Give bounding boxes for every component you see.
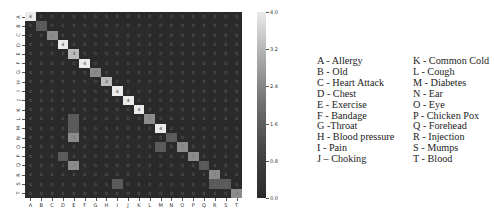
heatmap-cell: 0: [123, 31, 134, 40]
heatmap-cell: 0: [58, 189, 69, 198]
heatmap-cell: 0: [199, 31, 210, 40]
heatmap-cell: 0: [134, 124, 145, 133]
colorbar-tick: [266, 198, 269, 199]
heatmap-cell: 0: [90, 40, 101, 49]
heatmap-cell: 0: [231, 86, 242, 95]
heatmap-cell: 0: [188, 31, 199, 40]
heatmap-cell: 0: [231, 21, 242, 30]
heatmap-cell: 0: [220, 77, 231, 86]
heatmap-cell: 0: [90, 161, 101, 170]
heatmap-cell: 0: [112, 152, 123, 161]
heatmap-cell: 1: [166, 133, 177, 142]
heatmap-cell: 0: [36, 133, 47, 142]
heatmap-cell: 0: [144, 152, 155, 161]
x-tick: [150, 198, 151, 201]
x-tick: [96, 198, 97, 201]
heatmap-cell: 0: [155, 133, 166, 142]
x-tick-label: H: [101, 202, 112, 208]
heatmap-cell: 0: [36, 31, 47, 40]
heatmap-cell: 3: [101, 77, 112, 86]
heatmap-cell: 0: [123, 12, 134, 21]
heatmap-cell: 0: [123, 40, 134, 49]
heatmap-cell: 0: [199, 68, 210, 77]
heatmap-cell: 0: [220, 161, 231, 170]
heatmap-cell: 0: [68, 68, 79, 77]
heatmap-cell: 0: [36, 77, 47, 86]
x-tick-label: S: [220, 202, 231, 208]
heatmap-cell: 0: [101, 124, 112, 133]
y-tick-label: L: [15, 115, 21, 123]
heatmap-cell: 0: [79, 114, 90, 123]
heatmap-cell: 0: [134, 152, 145, 161]
colorbar-tick-label: 1.6: [270, 121, 278, 127]
heatmap-cell: 1: [155, 142, 166, 151]
heatmap-cell: 0: [144, 68, 155, 77]
heatmap-cell: 0: [123, 68, 134, 77]
x-tick-label: Q: [199, 202, 210, 208]
heatmap-cell: 0: [177, 105, 188, 114]
heatmap-cell: 0: [90, 170, 101, 179]
x-tick-label: L: [144, 202, 155, 208]
heatmap-cell: 0: [47, 170, 58, 179]
heatmap-cell: 0: [231, 142, 242, 151]
heatmap-cell: 0: [68, 179, 79, 188]
heatmap-cell: 0: [90, 12, 101, 21]
heatmap-cell: 0: [58, 161, 69, 170]
heatmap-cell: 0: [79, 31, 90, 40]
heatmap-cell: 0: [188, 77, 199, 86]
heatmap-cell: 0: [188, 12, 199, 21]
heatmap-cell: 0: [188, 40, 199, 49]
heatmap-cell: 0: [112, 68, 123, 77]
heatmap-cell: 0: [134, 68, 145, 77]
heatmap-cell: 0: [220, 31, 231, 40]
x-tick: [193, 198, 194, 201]
y-tick-label: O: [15, 143, 21, 151]
y-tick-label: R: [15, 171, 21, 179]
x-tick-label: B: [36, 202, 47, 208]
heatmap-cell: 0: [47, 114, 58, 123]
heatmap-cell: 0: [188, 21, 199, 30]
heatmap-cell: 0: [25, 31, 36, 40]
heatmap-cell: 0: [25, 49, 36, 58]
heatmap-cell: 0: [231, 68, 242, 77]
heatmap-cell: 0: [231, 105, 242, 114]
heatmap-cell: 0: [166, 40, 177, 49]
heatmap-cell: 0: [188, 189, 199, 198]
heatmap-cell: 2: [231, 189, 242, 198]
heatmap-cell: 0: [47, 133, 58, 142]
heatmap-cell: 0: [155, 31, 166, 40]
heatmap-cell: 0: [134, 12, 145, 21]
heatmap-cell: 0: [155, 77, 166, 86]
y-tick: [22, 72, 25, 73]
y-tick: [22, 110, 25, 111]
heatmap-cell: 0: [68, 59, 79, 68]
y-tick-label: E: [15, 50, 21, 58]
heatmap-cell: 0: [177, 12, 188, 21]
heatmap-cell: 0: [90, 189, 101, 198]
y-tick: [22, 147, 25, 148]
x-tick: [74, 198, 75, 201]
heatmap-cell: 0: [199, 21, 210, 30]
y-tick-label: T: [15, 189, 21, 197]
colorbar-tick-label: 2.4: [270, 83, 278, 89]
heatmap-cell: 0: [220, 124, 231, 133]
heatmap-cell: 0: [155, 179, 166, 188]
heatmap-cell: 0: [199, 152, 210, 161]
heatmap-cell: 0: [47, 59, 58, 68]
heatmap-cell: 0: [36, 12, 47, 21]
heatmap-cell: 0: [209, 86, 220, 95]
heatmap-cell: 0: [90, 105, 101, 114]
heatmap-cell: 2: [144, 114, 155, 123]
y-tick-label: F: [15, 59, 21, 67]
heatmap-cell: 0: [166, 31, 177, 40]
heatmap-cell: 0: [231, 40, 242, 49]
heatmap-cell: 0: [166, 12, 177, 21]
y-tick: [22, 156, 25, 157]
heatmap-cell: 0: [144, 161, 155, 170]
heatmap-cell: 0: [36, 68, 47, 77]
x-tick-label: G: [90, 202, 101, 208]
heatmap-cell: 0: [47, 161, 58, 170]
x-tick: [237, 198, 238, 201]
heatmap-cell: 0: [134, 31, 145, 40]
heatmap-cell: 0: [58, 68, 69, 77]
